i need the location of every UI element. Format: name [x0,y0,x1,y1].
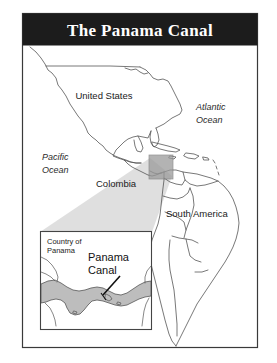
panama-highlight-box [149,155,173,179]
label-pacific-ocean-line2: Ocean [42,165,69,175]
inset-country-label-line1: Country of [47,237,83,246]
inset-country-label-line2: Panama [47,246,76,255]
canal-label-line2: Canal [88,264,117,276]
label-atlantic-ocean-line1: Atlantic [195,102,226,112]
panama-canal-figure: The Panama Canal [0,0,277,363]
label-colombia: Colombia [96,178,137,189]
label-united-states: United States [75,90,132,101]
label-atlantic-ocean-line2: Ocean [196,115,223,125]
label-pacific-ocean-line1: Pacific [42,152,69,162]
label-south-america: South America [166,208,228,219]
inset-map: Country of Panama Panama Canal [41,232,152,330]
canal-label-line1: Panama [88,251,130,263]
figure-title: The Panama Canal [67,21,213,40]
